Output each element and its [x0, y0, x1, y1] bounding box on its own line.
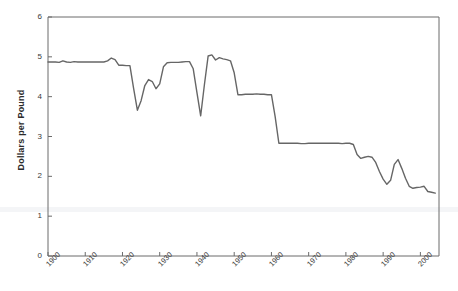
y-axis-ticks	[48, 17, 52, 256]
line-chart-plot	[0, 0, 458, 291]
y-tick-label: 5	[28, 52, 42, 61]
y-tick-label: 0	[28, 251, 42, 260]
y-tick-label: 2	[28, 171, 42, 180]
chart-container: Dollars per Pound 0123456 19001910192019…	[0, 0, 458, 291]
y-tick-label: 1	[28, 211, 42, 220]
series-line-price	[48, 55, 435, 193]
x-axis-ticks	[48, 252, 420, 256]
axis-lines	[48, 17, 439, 256]
y-tick-label: 6	[28, 12, 42, 21]
y-tick-label: 3	[28, 132, 42, 141]
y-tick-label: 4	[28, 92, 42, 101]
